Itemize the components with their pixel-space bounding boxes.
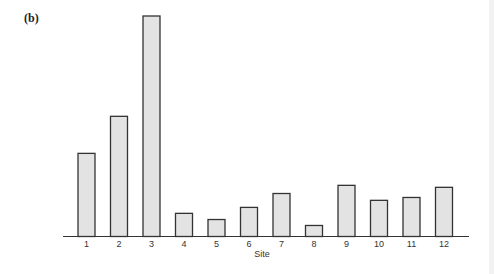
x-tick-label: 12: [439, 239, 449, 249]
x-tick-label: 4: [181, 239, 186, 249]
x-tick-label: 6: [246, 239, 251, 249]
x-tick-label: 5: [214, 239, 219, 249]
bar-chart: 123456789101112 Site: [0, 0, 494, 274]
bar-site-2: [111, 116, 128, 236]
x-tick-label: 9: [344, 239, 349, 249]
x-tick-label: 1: [84, 239, 89, 249]
x-tick-label: 3: [149, 239, 154, 249]
bar-site-11: [403, 197, 420, 236]
bar-site-7: [273, 194, 290, 237]
x-tick-label: 2: [116, 239, 121, 249]
x-tick-label: 8: [311, 239, 316, 249]
bar-site-6: [241, 207, 258, 236]
x-tick-label: 11: [407, 239, 416, 249]
bar-site-9: [338, 185, 355, 236]
bar-site-5: [208, 220, 225, 237]
bar-site-10: [371, 200, 388, 236]
x-tick-label: 10: [374, 239, 384, 249]
bar-site-12: [436, 187, 453, 236]
bar-site-8: [306, 225, 323, 236]
bar-site-1: [78, 153, 95, 236]
x-tick-label: 7: [279, 239, 284, 249]
x-tick-labels: 123456789101112: [84, 239, 449, 249]
x-axis-label: Site: [254, 249, 270, 259]
bar-site-4: [176, 213, 193, 236]
bar-site-3: [143, 16, 160, 237]
bars-group: [78, 16, 453, 237]
